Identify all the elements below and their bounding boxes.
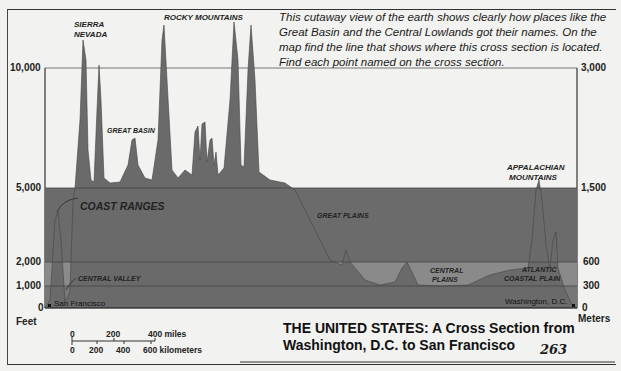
label-sierra-2: NEVADA — [74, 30, 107, 39]
label-sierra-1: SIERRA — [74, 20, 104, 29]
left-tick-0: 0 — [38, 302, 44, 313]
label-coast-ranges: COAST RANGES — [80, 200, 165, 212]
scale-km-400: 400 — [116, 345, 130, 355]
left-tick-2000: 2,000 — [16, 256, 41, 267]
page-number: 263 — [540, 342, 567, 357]
label-rocky-mountains: ROCKY MOUNTAINS — [164, 13, 243, 22]
scale-miles-400: 400 miles — [148, 329, 186, 339]
label-washington: Washington, D.C. — [505, 297, 567, 306]
title-line-1: THE UNITED STATES: A Cross Section from — [283, 320, 575, 337]
intro-text: This cutaway view of the earth shows cle… — [279, 10, 619, 70]
label-appalachian-2: MOUNTAINS — [509, 173, 557, 182]
right-axis-unit: Meters — [578, 313, 610, 324]
right-tick-300: 300 — [583, 280, 600, 291]
left-tick-5000: 5,000 — [16, 182, 41, 193]
right-tick-1500: 1,500 — [581, 182, 606, 193]
label-central-plains-2: PLAINS — [432, 276, 458, 283]
scale-miles-0: 0 — [70, 329, 75, 339]
label-central-plains-1: CENTRAL — [430, 267, 463, 274]
right-tick-600: 600 — [583, 256, 600, 267]
scale-km-200: 200 — [89, 345, 103, 355]
right-tick-0: 0 — [582, 302, 588, 313]
scale-miles-200: 200 — [106, 329, 120, 339]
label-central-valley: CENTRAL VALLEY — [78, 275, 140, 282]
label-atlantic-2: COASTAL PLAIN — [504, 275, 560, 282]
scale-km-600: 600 kilometers — [143, 345, 202, 355]
label-appalachian-1: APPALACHIAN — [507, 163, 565, 172]
figure-title: THE UNITED STATES: A Cross Section from … — [283, 320, 575, 354]
left-tick-10000: 10,000 — [10, 62, 41, 73]
label-san-francisco: San Francisco — [54, 299, 105, 308]
left-tick-1000: 1,000 — [16, 280, 41, 291]
right-tick-3000: 3,000 — [581, 62, 606, 73]
label-great-plains: GREAT PLAINS — [317, 212, 369, 219]
label-great-basin: GREAT BASIN — [107, 127, 155, 134]
scale-km-0: 0 — [70, 345, 75, 355]
label-atlantic-1: ATLANTIC — [522, 266, 556, 273]
left-axis-unit: Feet — [16, 316, 37, 327]
title-line-2: Washington, D.C. to San Francisco — [283, 337, 575, 354]
